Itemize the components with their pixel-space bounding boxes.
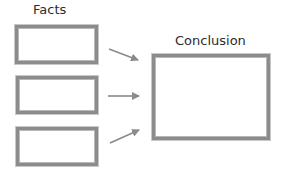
arrows xyxy=(0,0,285,174)
arrow-fact-3-icon xyxy=(110,130,139,143)
arrow-fact-1-icon xyxy=(109,49,138,60)
